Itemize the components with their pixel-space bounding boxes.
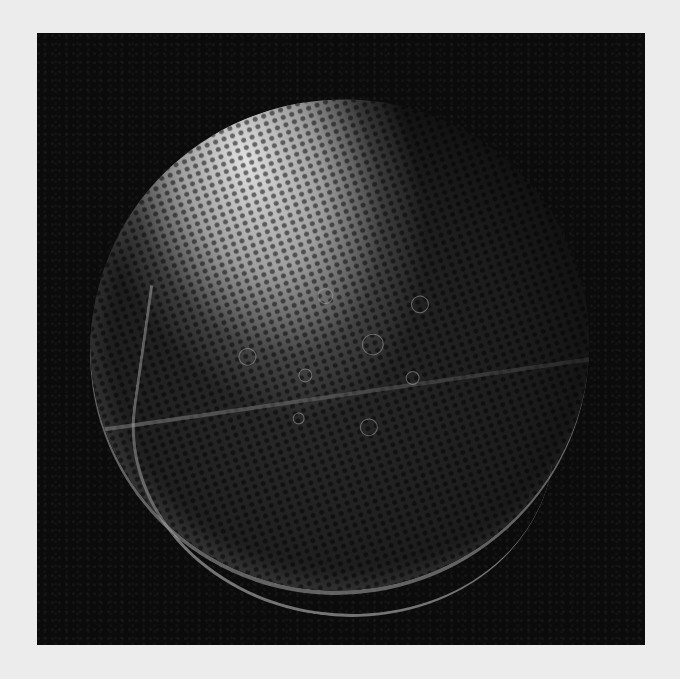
photo-frame: [37, 33, 645, 645]
